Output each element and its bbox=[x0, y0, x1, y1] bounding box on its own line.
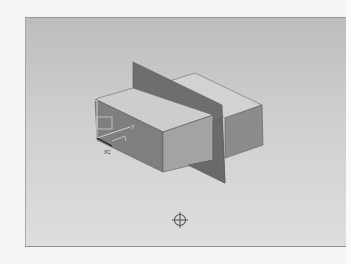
csys-xc-label: XC bbox=[104, 149, 111, 155]
crosshair-icon bbox=[172, 212, 188, 228]
csys-z-label: Z bbox=[94, 96, 97, 102]
model-scene[interactable]: Z Y XC bbox=[0, 0, 351, 264]
